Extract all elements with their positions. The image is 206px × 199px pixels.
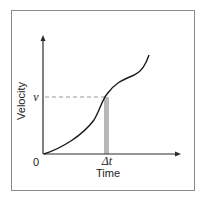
delta-t-label: Δt: [101, 154, 113, 168]
delta-t-strip: [104, 97, 109, 154]
x-axis-arrow-icon: [175, 152, 181, 157]
origin-label: 0: [33, 156, 39, 168]
y-axis-arrow-icon: [41, 35, 46, 41]
y-axis-label: Velocity: [15, 82, 27, 120]
x-axis-label: Time: [96, 167, 120, 179]
velocity-curve: [44, 55, 149, 154]
v-tick-label: v: [33, 90, 39, 104]
velocity-time-diagram: Velocity v 0 Δt Time: [0, 0, 206, 199]
